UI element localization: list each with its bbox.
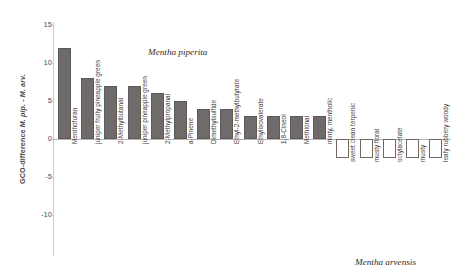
x-tick-label: 2-Methylbutanal [115,98,127,144]
x-tick-label: Dimethylsulfide [208,100,220,144]
y-tick-label: 5 [18,97,52,105]
y-tick-label: 10 [18,59,52,67]
x-tick-label: Ethylisovalerate [255,98,267,144]
y-tick-label: 15 [18,21,52,29]
x-tick-label: a-Pinene [185,118,197,144]
x-tick-label: Methional [301,116,313,144]
x-tick-label: 1,8-Cineol [278,114,290,144]
x-tick-label: Menthofuran [69,108,81,144]
x-tick-label: octylacetate [394,127,406,162]
x-tick-label: Ethyl-2-methylbutyrate [231,79,243,144]
x-tick-label: leafy rubbery woody [440,104,452,162]
x-tick-label: musty [417,145,429,162]
y-tick-label: 0 [18,135,52,143]
chart-canvas: GCO-difference M. pip. - M. arv. 151050-… [0,0,455,277]
x-tick-label: musty floral [371,129,383,162]
y-tick-label: -10 [18,211,52,219]
annotation-mentha-piperita: Mentha piperita [148,47,207,57]
bar-group: Menthofuranjuniper fruity pineapple gree… [53,0,451,277]
x-tick-label: 2-Methylpropanal [162,94,174,144]
y-axis-ticks: 151050-5-10 [0,0,52,277]
x-tick-label: juniper pineapple green [139,76,151,144]
x-tick-label: sweet clean terpenic [347,103,359,162]
y-tick-label: -5 [18,173,52,181]
annotation-mentha-arvensis: Mentha arvensis [355,257,416,267]
x-tick-label: minty, mentholic [324,98,336,145]
x-tick-label: juniper fruity pineapple green [92,60,104,144]
